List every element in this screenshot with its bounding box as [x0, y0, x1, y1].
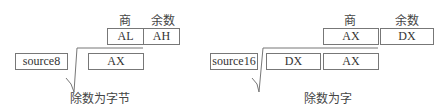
diagram-caption: 除数为字	[304, 89, 352, 106]
divisor-box: source8	[15, 53, 68, 70]
dividend-low-box: AX	[323, 53, 379, 70]
quotient-register-box: AL	[107, 28, 144, 45]
remainder-register-box: AH	[143, 28, 180, 45]
remainder-label: 余数	[145, 11, 181, 28]
remainder-register-box: DX	[380, 28, 434, 45]
divisor-box: source16	[210, 53, 258, 70]
quotient-label: 商	[337, 11, 363, 28]
remainder-label: 余数	[389, 11, 425, 28]
dividend-box: AX	[88, 53, 144, 70]
diagram-caption: 除数为字节	[70, 89, 130, 106]
dividend-high-box: DX	[266, 53, 321, 70]
quotient-register-box: AX	[323, 28, 379, 45]
quotient-label: 商	[112, 11, 138, 28]
